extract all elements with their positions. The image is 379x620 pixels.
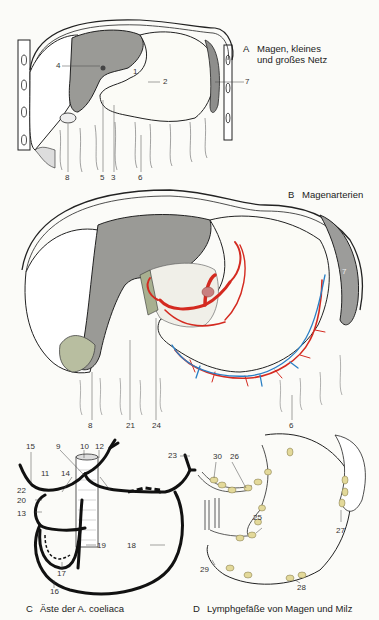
- label-c-14: 13: [17, 510, 26, 518]
- label-c-17: 18: [127, 542, 136, 550]
- panel-a-title-line2: und großes Netz: [257, 54, 327, 65]
- label-a-4: 4: [56, 62, 60, 70]
- panel-b-caption: BMagenarterien: [288, 189, 363, 200]
- panel-c-caption: CÄste der A. coeliaca: [26, 603, 124, 614]
- label-c-12: 12: [95, 443, 104, 451]
- label-c-13: 14: [61, 470, 70, 478]
- label-a-5: 5: [100, 174, 104, 182]
- label-d-25: 25: [253, 514, 262, 522]
- label-a-3: 3: [111, 174, 115, 182]
- panel-b-illustration: [22, 190, 362, 420]
- panel-b-letter: B: [288, 189, 302, 200]
- label-c-23: 23: [168, 452, 177, 460]
- label-c-11: 11: [41, 470, 49, 478]
- panel-a-illustration: [18, 20, 244, 172]
- panel-c-title: Äste der A. coeliaca: [40, 603, 124, 614]
- panel-d-title: Lymphgefäße von Magen und Milz: [207, 603, 352, 614]
- panel-b-title: Magenarterien: [302, 189, 363, 200]
- panel-d-letter: D: [193, 603, 207, 614]
- anatomy-illustration: [0, 0, 379, 620]
- label-b-7: 7: [342, 268, 346, 276]
- label-d-27: 27: [336, 527, 345, 535]
- panel-a-letter: A: [243, 43, 257, 54]
- label-c-22: 22: [17, 487, 26, 495]
- label-d-29: 29: [200, 566, 209, 574]
- label-c-15: 15: [26, 443, 35, 451]
- label-c-9: 9: [56, 443, 60, 451]
- panel-a-caption: AMagen, kleines und großes Netz: [243, 43, 327, 66]
- label-b-8: 8: [88, 422, 92, 430]
- label-b-6: 6: [289, 422, 293, 430]
- label-a-8: 8: [65, 174, 69, 182]
- label-c-20: 20: [17, 497, 26, 505]
- label-c-18: 17: [57, 570, 66, 578]
- label-c-19: 19: [97, 542, 106, 550]
- panel-d-illustration: [198, 434, 365, 584]
- label-d-30: 30: [213, 453, 222, 461]
- panel-c-illustration: [20, 440, 195, 594]
- panel-d-caption: DLymphgefäße von Magen und Milz: [193, 603, 352, 614]
- label-a-7: 7: [245, 78, 249, 86]
- panel-c-letter: C: [26, 603, 40, 614]
- label-b-21: 21: [126, 422, 135, 430]
- label-d-28: 28: [297, 584, 306, 592]
- panel-a-title-line1: Magen, kleines: [257, 43, 321, 54]
- label-c-10: 10: [80, 443, 89, 451]
- label-c-16: 16: [50, 588, 59, 596]
- label-a-6: 6: [138, 174, 142, 182]
- label-b-24: 24: [152, 422, 161, 430]
- label-a-1: 1: [133, 68, 137, 76]
- label-a-2: 2: [163, 78, 167, 86]
- label-d-26: 26: [230, 453, 239, 461]
